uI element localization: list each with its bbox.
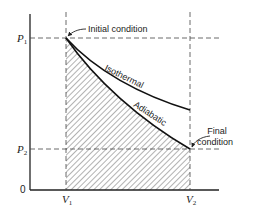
initial-condition-label: Initial condition (88, 24, 148, 34)
p2-label: P2 (16, 143, 28, 157)
pv-diagram: Isothermal Adiabatic Initial condition F… (0, 0, 259, 214)
shaded-work-area (66, 38, 190, 190)
origin-label: 0 (20, 184, 26, 195)
initial-arrow (68, 29, 86, 36)
final-condition-label-line1: Final (207, 126, 227, 136)
p1-label: P1 (16, 32, 28, 46)
final-condition-label-line2: condition (197, 137, 233, 147)
v1-label: V1 (62, 193, 73, 207)
isothermal-label: Isothermal (103, 63, 145, 90)
v2-label: V2 (186, 193, 197, 207)
